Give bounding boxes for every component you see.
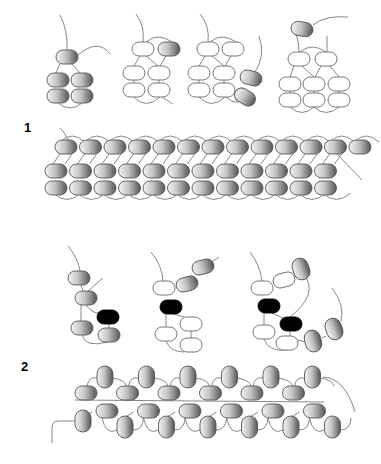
shaded-bead-icon: [221, 404, 243, 418]
shaded-bead-icon: [45, 181, 67, 195]
shaded-bead-icon: [178, 140, 200, 154]
band2-thread-loop: [87, 378, 97, 386]
shaded-bead-icon: [158, 42, 180, 56]
band1-thread-link: [176, 154, 183, 164]
step-2b-thread: [151, 252, 163, 281]
shaded-bead-icon: [180, 366, 196, 388]
band1-thread-link: [151, 154, 158, 164]
band1-thread-link: [114, 154, 121, 164]
shaded-bead-icon: [119, 181, 141, 195]
outline-bead-icon: [213, 83, 235, 97]
band1-thread-link: [163, 154, 170, 164]
shaded-bead-icon: [159, 416, 175, 438]
outline-bead-icon: [148, 83, 170, 97]
band1-thread-link: [298, 154, 305, 164]
band1-thread-link: [90, 154, 97, 164]
outline-bead-icon: [303, 77, 325, 91]
band2-thread-loop: [279, 378, 293, 386]
step-1c-thread: [255, 36, 262, 72]
shaded-bead-icon: [129, 140, 151, 154]
shaded-bead-icon: [304, 404, 326, 418]
shaded-bead-icon: [200, 416, 216, 438]
shaded-bead-icon: [232, 85, 258, 108]
step-2a-thread: [68, 246, 80, 271]
step-1d-thread: [300, 47, 326, 52]
outline-bead-icon: [153, 281, 175, 295]
shaded-bead-icon: [251, 140, 273, 154]
step-1d-thread: [314, 107, 339, 113]
outline-bead-icon: [188, 66, 210, 80]
shaded-bead-icon: [153, 140, 175, 154]
shaded-bead-icon: [138, 404, 160, 418]
band2-thread-loop: [113, 378, 127, 386]
step-1b-thread: [162, 97, 173, 104]
outline-bead-icon: [180, 338, 202, 352]
outline-bead-icon: [188, 83, 210, 97]
outline-bead-icon: [253, 325, 275, 339]
shaded-bead-icon: [266, 181, 288, 195]
step-1b-thread: [146, 37, 172, 42]
shaded-bead-icon: [70, 181, 92, 195]
band1-thread-link: [237, 154, 244, 164]
band2-thread-loop: [196, 378, 210, 386]
shaded-bead-icon: [276, 140, 298, 154]
step-2b-thread: [174, 314, 184, 317]
outline-bead-icon: [328, 77, 350, 91]
shaded-bead-icon: [143, 181, 165, 195]
outline-bead-icon: [315, 52, 337, 66]
shaded-bead-icon: [290, 181, 312, 195]
shaded-bead-icon: [217, 164, 239, 178]
shaded-bead-icon: [75, 410, 91, 432]
band2-thread-loop: [227, 418, 242, 432]
step-1b-thread: [134, 97, 160, 104]
shaded-bead-icon: [70, 164, 92, 178]
shaded-bead-icon: [71, 89, 93, 103]
shaded-bead-icon: [290, 164, 312, 178]
shaded-bead-icon: [45, 164, 67, 178]
step-1a-thread: [60, 15, 67, 50]
outline-bead-icon: [197, 42, 219, 56]
shaded-bead-icon: [302, 328, 323, 353]
band2-thread-loop: [341, 418, 352, 430]
shaded-bead-icon: [283, 416, 299, 438]
shaded-bead-icon: [47, 89, 69, 103]
shaded-bead-icon: [179, 404, 201, 418]
shaded-bead-icon: [168, 181, 190, 195]
step-2a-thread: [86, 305, 98, 313]
band1-thread-link: [78, 154, 85, 164]
step-2c-thread: [332, 288, 342, 321]
figure-label-2: 2: [21, 359, 28, 374]
shaded-bead-icon: [300, 140, 322, 154]
shaded-bead-icon: [168, 164, 190, 178]
shaded-bead-icon: [80, 140, 102, 154]
shaded-bead-icon: [241, 181, 263, 195]
shaded-bead-icon: [117, 386, 139, 400]
shaded-bead-icon: [97, 366, 113, 388]
shaded-bead-icon: [68, 271, 90, 285]
outline-bead-icon: [328, 93, 350, 107]
band1-thread-link: [200, 154, 207, 164]
step-1b-thread: [136, 14, 143, 42]
band1-thread-link: [102, 154, 109, 164]
band2-thread-loop: [129, 378, 139, 386]
band2-thread-loop: [155, 378, 169, 386]
shaded-bead-icon: [191, 257, 216, 276]
step-1d-thread: [290, 66, 294, 77]
shaded-bead-icon: [71, 321, 93, 335]
band1-thread-link: [274, 154, 281, 164]
step-2a-thread: [88, 278, 103, 291]
step-2c-thread: [250, 252, 262, 281]
outline-bead-icon: [288, 52, 310, 66]
shaded-bead-icon: [241, 164, 263, 178]
shaded-bead-icon: [325, 416, 341, 438]
bead-layer: [45, 20, 371, 438]
band2-thread-center: [75, 400, 324, 402]
shaded-bead-icon: [98, 328, 120, 342]
outline-bead-icon: [213, 66, 235, 80]
shaded-bead-icon: [200, 386, 222, 400]
band2-thread-tail-in: [52, 421, 75, 443]
shaded-bead-icon: [192, 164, 214, 178]
band1-thread-link: [310, 154, 317, 164]
outline-bead-icon: [155, 327, 177, 341]
band2-thread-loop: [295, 378, 305, 386]
